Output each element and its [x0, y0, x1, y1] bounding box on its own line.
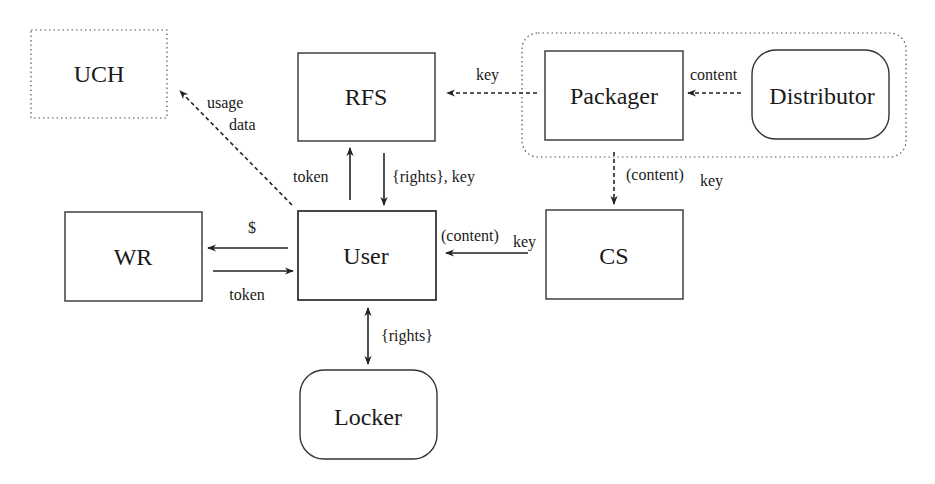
edge-packager-to-cs: (content) key — [614, 152, 723, 204]
packager-label: Packager — [570, 83, 658, 109]
data-label: data — [229, 116, 256, 133]
node-packager[interactable]: Packager — [545, 51, 683, 140]
edge-distributor-to-packager: content — [688, 66, 741, 93]
key-sub-label-cs: key — [700, 172, 723, 190]
distributor-label: Distributor — [769, 83, 874, 109]
content-label: content — [690, 66, 738, 83]
diagram-canvas: UCH RFS Packager Distributor WR User CS … — [0, 0, 935, 484]
uch-label: UCH — [74, 61, 125, 87]
locker-label: Locker — [334, 404, 402, 430]
key-sub-label-user: key — [513, 233, 536, 251]
wr-label: WR — [114, 244, 153, 270]
node-uch[interactable]: UCH — [31, 30, 167, 118]
edge-rfs-to-user: {rights}, key — [384, 153, 475, 205]
key-label: key — [476, 66, 499, 84]
edge-user-to-rfs: token — [293, 148, 350, 200]
cs-label: CS — [599, 243, 628, 269]
edge-cs-to-user: (content) key — [441, 227, 536, 253]
node-user[interactable]: User — [298, 211, 436, 300]
content-label-cs: (content) — [626, 166, 684, 184]
rights-label-locker: {rights} — [381, 327, 433, 345]
node-cs[interactable]: CS — [546, 210, 683, 299]
edge-wr-to-user: token — [213, 271, 293, 303]
rights-key-label: {rights}, key — [392, 168, 475, 186]
node-distributor[interactable]: Distributor — [752, 50, 889, 139]
edge-user-locker: {rights} — [368, 308, 433, 364]
content-label-user: (content) — [441, 227, 499, 245]
edge-user-to-wr: $ — [208, 219, 288, 248]
edge-packager-to-rfs: key — [447, 66, 537, 93]
node-rfs[interactable]: RFS — [298, 53, 435, 141]
node-locker[interactable]: Locker — [300, 370, 437, 459]
user-label: User — [343, 243, 388, 269]
node-wr[interactable]: WR — [65, 212, 202, 301]
token-label-wr: token — [229, 286, 265, 303]
edge-user-to-uch: usage data — [180, 91, 292, 205]
usage-label: usage — [207, 94, 243, 112]
rfs-label: RFS — [345, 84, 388, 110]
token-label-rfs: token — [293, 168, 329, 185]
dollar-label: $ — [248, 219, 256, 236]
